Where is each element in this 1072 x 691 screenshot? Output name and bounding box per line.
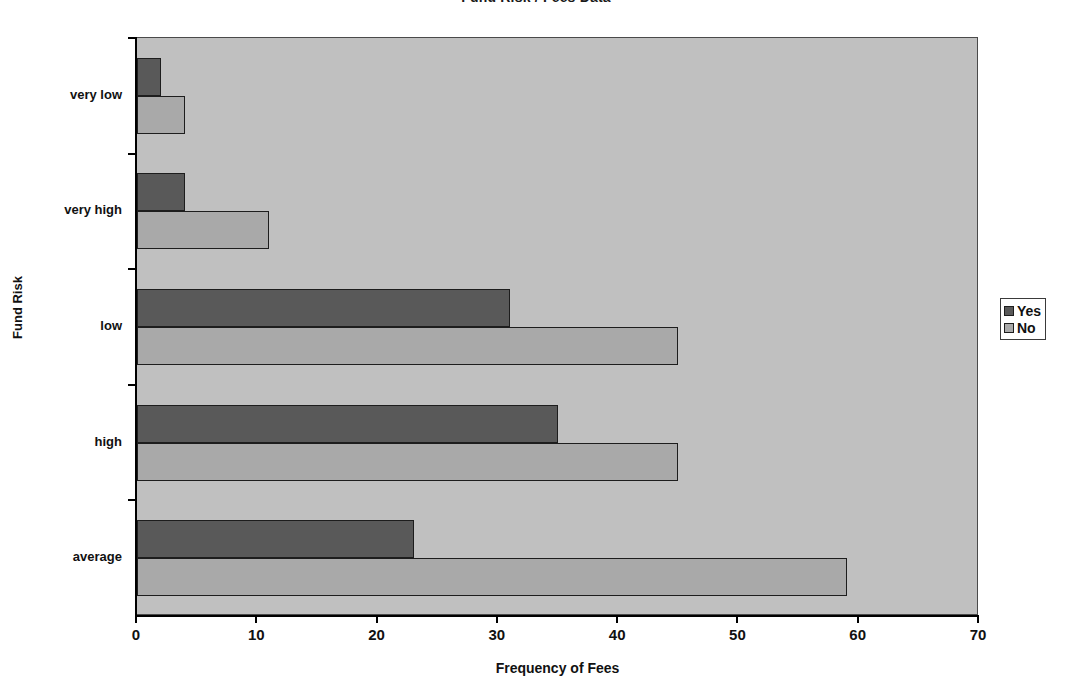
x-axis-tick-label: 20 — [368, 626, 385, 643]
y-axis-label-high: high — [0, 434, 122, 449]
x-axis-tick — [135, 615, 137, 623]
y-axis-label-average: average — [0, 549, 122, 564]
bar-very-high-no — [137, 211, 269, 249]
x-axis-tick-label: 50 — [729, 626, 746, 643]
bar-average-no — [137, 558, 847, 596]
x-axis-tick-label: 10 — [248, 626, 265, 643]
bar-low-no — [137, 327, 678, 365]
x-axis-tick-label: 30 — [489, 626, 506, 643]
y-axis-tick — [128, 37, 136, 39]
y-axis-label-low: low — [0, 318, 122, 333]
x-axis-tick — [977, 615, 979, 623]
chart-legend: YesNo — [1000, 298, 1046, 340]
x-axis-line — [136, 615, 979, 617]
x-axis-tick — [496, 615, 498, 623]
x-axis-tick — [616, 615, 618, 623]
legend-label: Yes — [1017, 304, 1041, 318]
x-axis-tick — [376, 615, 378, 623]
y-axis-tick — [128, 384, 136, 386]
bars-container — [137, 38, 977, 614]
x-axis-tick-label: 40 — [609, 626, 626, 643]
y-axis-label-very-high: very high — [0, 202, 122, 217]
legend-label: No — [1017, 321, 1036, 335]
chart-title: Fund Risk / Fees Data — [0, 0, 1072, 4]
legend-item-yes[interactable]: Yes — [1004, 302, 1041, 319]
legend-swatch-icon — [1004, 306, 1014, 316]
bar-high-no — [137, 443, 678, 481]
chart-figure: Fund Risk / Fees Data Fund Risk 01020304… — [0, 0, 1072, 691]
x-axis-tick-label: 0 — [132, 626, 140, 643]
x-axis-tick-label: 60 — [849, 626, 866, 643]
bar-average-yes — [137, 520, 414, 558]
bar-very-low-yes — [137, 58, 161, 96]
y-axis-tick — [128, 153, 136, 155]
plot-area — [136, 37, 978, 615]
x-axis-tick — [736, 615, 738, 623]
y-axis-tick — [128, 499, 136, 501]
y-axis-title: Fund Risk — [10, 258, 25, 358]
y-axis-tick — [128, 268, 136, 270]
y-axis-line — [135, 37, 137, 617]
bar-low-yes — [137, 289, 510, 327]
legend-item-no[interactable]: No — [1004, 319, 1041, 336]
legend-swatch-icon — [1004, 323, 1014, 333]
bar-very-high-yes — [137, 173, 185, 211]
x-axis-tick-label: 70 — [970, 626, 987, 643]
x-axis-tick — [255, 615, 257, 623]
y-axis-label-very-low: very low — [0, 87, 122, 102]
bar-high-yes — [137, 405, 558, 443]
x-axis-title: Frequency of Fees — [136, 660, 979, 676]
bar-very-low-no — [137, 96, 185, 134]
x-axis-tick — [857, 615, 859, 623]
